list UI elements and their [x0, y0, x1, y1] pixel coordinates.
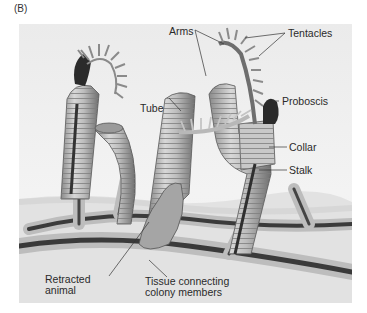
- label-retracted-animal: Retracted animal: [45, 274, 91, 296]
- illustration-panel: Arms Tentacles Proboscis Tube Collar Sta…: [19, 24, 352, 303]
- label-tube: Tube: [140, 103, 164, 114]
- label-tissue-line2: colony members: [145, 287, 229, 298]
- label-collar: Collar: [289, 142, 316, 153]
- label-arms: Arms: [169, 26, 194, 37]
- label-tentacles: Tentacles: [288, 28, 332, 39]
- label-stalk: Stalk: [289, 165, 312, 176]
- label-tissue-connecting: Tissue connecting colony members: [145, 276, 229, 298]
- panel-label: (B): [14, 3, 27, 14]
- label-retracted-line2: animal: [45, 285, 91, 296]
- label-proboscis: Proboscis: [282, 96, 328, 107]
